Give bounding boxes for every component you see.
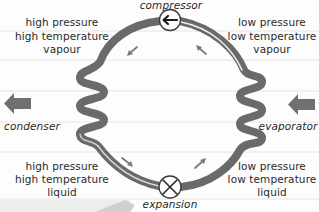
condenser-arrow-left-icon	[4, 93, 31, 114]
state-bottom-left: high pressure high temperature liquid	[15, 160, 109, 198]
condenser-label: condenser	[4, 120, 60, 132]
state-bottom-left-line-1: high pressure	[26, 160, 99, 172]
evaporator-arrow-left-icon	[288, 94, 315, 115]
compressor-label: compressor	[140, 0, 203, 11]
flow-arrow-top-left-icon	[127, 47, 137, 56]
state-bottom-right-line-2: low temperature	[228, 173, 317, 185]
state-bottom-right-line-3: liquid	[257, 186, 286, 198]
state-top-left-line-1: high pressure	[26, 16, 99, 28]
condenser: condenser	[4, 93, 60, 132]
state-bottom-left-line-2: high temperature	[15, 173, 109, 185]
evaporator: evaporator	[259, 94, 318, 132]
flow-arrows	[122, 45, 206, 168]
state-top-right-line-3: vapour	[253, 43, 291, 55]
state-bottom-right-line-1: low pressure	[238, 160, 306, 172]
pipe-loop	[80, 21, 262, 187]
state-top-right-line-2: low temperature	[228, 30, 317, 42]
evaporator-label: evaporator	[259, 120, 318, 132]
state-top-right-line-1: low pressure	[238, 16, 306, 28]
state-top-left-line-2: high temperature	[15, 30, 109, 42]
flow-arrow-bottom-left-icon	[122, 158, 133, 167]
state-top-left-line-3: vapour	[43, 43, 81, 55]
flow-arrow-top-right-icon	[196, 45, 206, 54]
state-bottom-right: low pressure low temperature liquid	[228, 160, 317, 198]
state-top-left: high pressure high temperature vapour	[15, 16, 109, 55]
state-bottom-left-line-3: liquid	[47, 186, 76, 198]
flow-arrow-bottom-right-icon	[195, 158, 206, 168]
expansion-label: expansion	[143, 198, 198, 210]
refrigeration-cycle-diagram: compressor expansion condenser evaporato…	[0, 0, 319, 212]
state-top-right: low pressure low temperature vapour	[228, 16, 317, 55]
